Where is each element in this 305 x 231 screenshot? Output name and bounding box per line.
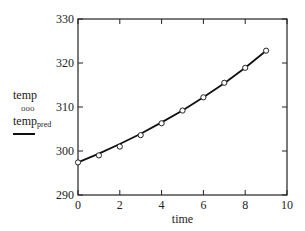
temp-data-point [201,95,206,100]
x-tick-label: 8 [242,198,248,212]
temp-pred-line [78,51,266,163]
temp-data-point [75,160,80,165]
legend-line-icon [13,133,35,135]
x-tick-label: 0 [75,198,81,212]
temp-data-point [159,121,164,126]
y-tick-label: 290 [56,188,74,202]
x-tick-label: 10 [281,198,293,212]
x-tick-label: 2 [117,198,123,212]
legend: temp ooo temppred [13,89,51,135]
x-tick-label: 4 [159,198,165,212]
y-tick-label: 310 [56,100,74,114]
temp-data-point [243,65,248,70]
x-tick-label: 6 [200,198,206,212]
legend-label-temp-pred: temppred [13,115,51,131]
y-tick-label: 300 [56,144,74,158]
temp-data-point [222,80,227,85]
y-tick-label: 320 [56,56,74,70]
plot-frame [78,19,287,195]
temp-data-point [138,133,143,138]
temp-data-point [96,153,101,158]
temp-data-point [264,48,269,53]
temp-data-point [180,108,185,113]
x-axis-label: time [172,212,193,226]
y-tick-label: 330 [56,12,74,26]
temp-data-point [117,144,122,149]
legend-label-temp: temp [13,89,51,102]
